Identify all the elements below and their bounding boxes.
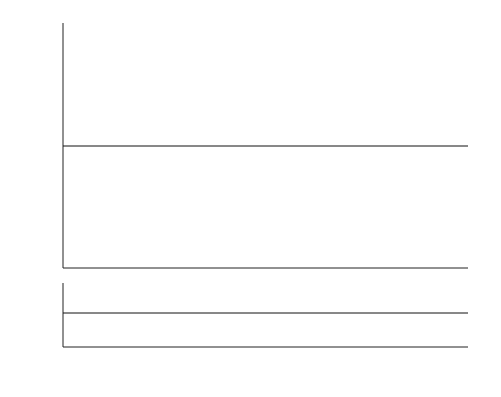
- bottom-panel: [63, 283, 468, 347]
- eye-head-velocity-figure: [0, 0, 501, 397]
- top-panel: [63, 23, 468, 268]
